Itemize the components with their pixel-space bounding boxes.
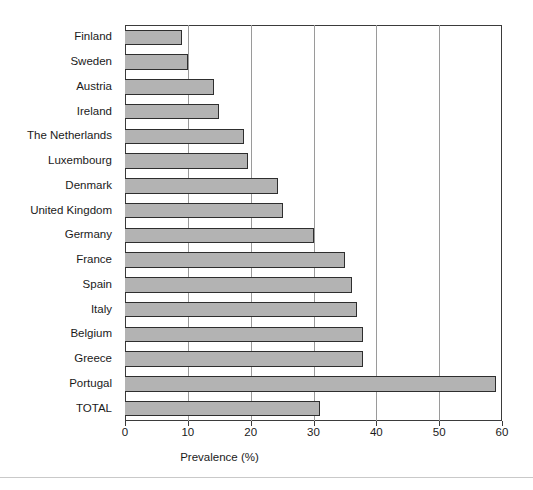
bar-row — [125, 178, 502, 193]
bar-row — [125, 203, 502, 218]
category-axis-labels: FinlandSwedenAustriaIrelandThe Netherlan… — [0, 25, 120, 421]
category-label-the-netherlands: The Netherlands — [27, 130, 112, 142]
category-label-denmark: Denmark — [65, 180, 112, 192]
bar-luxembourg — [125, 153, 248, 168]
bar-row — [125, 327, 502, 342]
bars-layer — [125, 25, 502, 421]
bar-portugal — [125, 376, 496, 391]
plot-area — [125, 25, 502, 421]
category-label-total: TOTAL — [76, 403, 112, 415]
category-label-spain: Spain — [83, 279, 112, 291]
bar-austria — [125, 79, 214, 94]
bar-row — [125, 79, 502, 94]
bar-sweden — [125, 54, 188, 69]
category-label-united-kingdom: United Kingdom — [30, 205, 112, 217]
bar-row — [125, 30, 502, 45]
category-label-portugal: Portugal — [69, 378, 112, 390]
x-axis-title: Prevalence (%) — [0, 452, 533, 464]
x-tick-label-30: 30 — [307, 427, 320, 439]
bar-greece — [125, 351, 363, 366]
x-tick-label-40: 40 — [370, 427, 383, 439]
bar-row — [125, 277, 502, 292]
category-label-france: France — [76, 254, 112, 266]
bar-the-netherlands — [125, 129, 244, 144]
category-label-greece: Greece — [74, 353, 112, 365]
category-label-sweden: Sweden — [70, 56, 112, 68]
category-label-finland: Finland — [74, 31, 112, 43]
prevalence-bar-chart: FinlandSwedenAustriaIrelandThe Netherlan… — [0, 0, 533, 490]
category-label-luxembourg: Luxembourg — [48, 155, 112, 167]
bar-row — [125, 351, 502, 366]
bar-row — [125, 401, 502, 416]
x-tick-label-20: 20 — [244, 427, 257, 439]
bar-france — [125, 252, 345, 267]
bar-belgium — [125, 327, 363, 342]
category-label-germany: Germany — [65, 229, 112, 241]
bar-row — [125, 302, 502, 317]
bar-finland — [125, 30, 182, 45]
category-label-ireland: Ireland — [77, 106, 112, 118]
bar-ireland — [125, 104, 219, 119]
bar-row — [125, 129, 502, 144]
bar-germany — [125, 228, 314, 243]
bar-denmark — [125, 178, 278, 193]
bar-italy — [125, 302, 357, 317]
footer-divider — [0, 477, 533, 478]
bar-row — [125, 376, 502, 391]
bar-spain — [125, 277, 352, 292]
x-tick-label-60: 60 — [496, 427, 509, 439]
x-axis-title-text: Prevalence (%) — [180, 451, 259, 463]
x-tick-label-10: 10 — [181, 427, 194, 439]
bar-total — [125, 401, 320, 416]
category-label-austria: Austria — [76, 81, 112, 93]
x-tick-label-50: 50 — [433, 427, 446, 439]
bar-row — [125, 153, 502, 168]
category-label-italy: Italy — [91, 304, 112, 316]
category-label-belgium: Belgium — [70, 328, 112, 340]
x-tick-label-0: 0 — [122, 427, 128, 439]
bar-row — [125, 54, 502, 69]
bar-united-kingdom — [125, 203, 283, 218]
bar-row — [125, 252, 502, 267]
bar-row — [125, 104, 502, 119]
bar-row — [125, 228, 502, 243]
